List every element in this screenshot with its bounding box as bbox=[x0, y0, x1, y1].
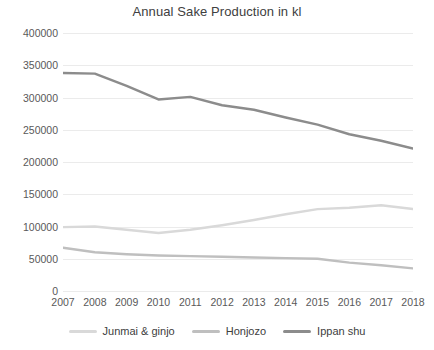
chart-legend: Junmai & ginjoHonjozoIppan shu bbox=[0, 325, 434, 337]
legend-swatch-icon bbox=[283, 330, 311, 333]
y-axis-tick-label: 100000 bbox=[3, 221, 58, 233]
legend-item[interactable]: Ippan shu bbox=[283, 325, 365, 337]
x-axis-tick-label: 2007 bbox=[51, 296, 74, 308]
chart-container: Annual Sake Production in kl 05000010000… bbox=[0, 0, 434, 350]
x-axis-tick-label: 2008 bbox=[83, 296, 106, 308]
series-line bbox=[63, 248, 413, 269]
x-axis: 2007200820092010201120122013201420152016… bbox=[63, 296, 413, 312]
legend-item[interactable]: Honjozo bbox=[192, 325, 266, 337]
x-axis-tick-label: 2018 bbox=[401, 296, 424, 308]
x-axis-tick-label: 2016 bbox=[338, 296, 361, 308]
x-axis-tick-label: 2015 bbox=[306, 296, 329, 308]
series-lines bbox=[63, 33, 413, 291]
y-axis-tick-label: 200000 bbox=[3, 156, 58, 168]
y-axis-tick-label: 250000 bbox=[3, 124, 58, 136]
x-axis-tick-label: 2013 bbox=[242, 296, 265, 308]
x-axis-tick-label: 2017 bbox=[369, 296, 392, 308]
x-axis-tick-label: 2012 bbox=[210, 296, 233, 308]
x-axis-tick-label: 2009 bbox=[115, 296, 138, 308]
x-axis-tick-label: 2011 bbox=[179, 296, 202, 308]
legend-swatch-icon bbox=[69, 330, 97, 333]
y-axis-tick-label: 350000 bbox=[3, 59, 58, 71]
series-line bbox=[63, 205, 413, 233]
plot-area bbox=[63, 33, 413, 291]
legend-item-label: Junmai & ginjo bbox=[103, 325, 175, 337]
y-axis-tick-label: 0 bbox=[3, 285, 58, 297]
y-axis-tick-label: 300000 bbox=[3, 92, 58, 104]
gridline bbox=[63, 291, 413, 292]
y-axis-tick-label: 400000 bbox=[3, 27, 58, 39]
chart-title: Annual Sake Production in kl bbox=[0, 4, 434, 19]
x-axis-tick-label: 2014 bbox=[274, 296, 297, 308]
y-axis-tick-label: 150000 bbox=[3, 188, 58, 200]
y-axis-tick-label: 50000 bbox=[3, 253, 58, 265]
legend-item[interactable]: Junmai & ginjo bbox=[69, 325, 175, 337]
y-axis: 0500001000001500002000002500003000003500… bbox=[0, 33, 58, 291]
legend-item-label: Honjozo bbox=[226, 325, 266, 337]
legend-swatch-icon bbox=[192, 330, 220, 333]
series-line bbox=[63, 73, 413, 148]
legend-item-label: Ippan shu bbox=[317, 325, 365, 337]
x-axis-tick-label: 2010 bbox=[147, 296, 170, 308]
